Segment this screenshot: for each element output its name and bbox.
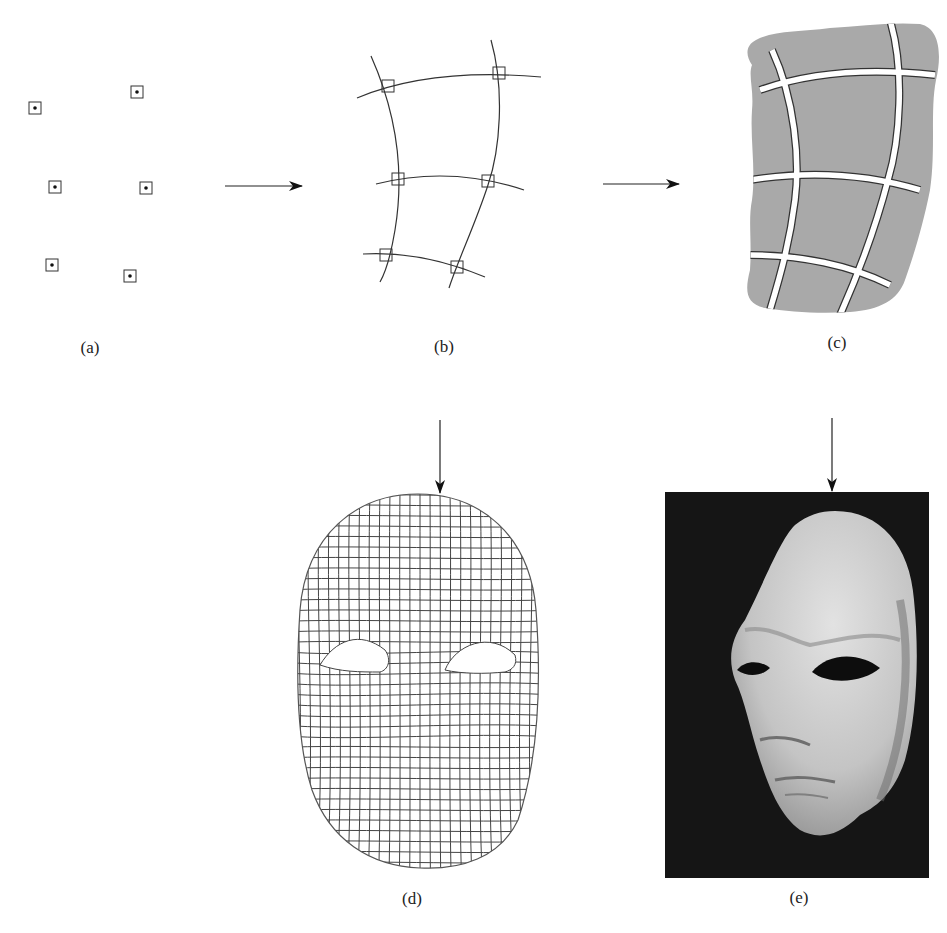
panel-e-label: (e) (790, 888, 809, 908)
panel-d-wireframe (295, 490, 545, 874)
panel-c-label: (c) (828, 333, 847, 353)
figure: (a) (b) (c) (d) (e) (0, 0, 947, 933)
panel-d-label: (d) (402, 889, 422, 909)
panel-e-photo (665, 492, 929, 878)
figure-canvas (0, 0, 947, 933)
panel-c-patch (747, 20, 939, 315)
panel-b-label: (b) (434, 337, 454, 357)
panel-b-curves (357, 40, 541, 288)
panel-a-label: (a) (81, 338, 100, 358)
panel-a-markers (29, 86, 152, 282)
